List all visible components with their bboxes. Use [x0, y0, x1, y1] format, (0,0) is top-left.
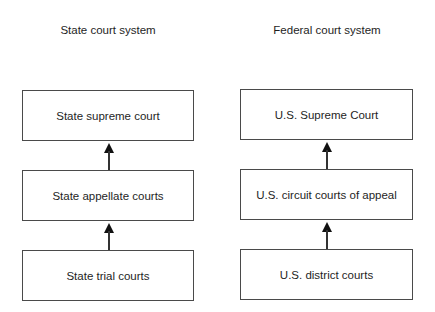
federal-column-title: Federal court system — [227, 24, 427, 36]
us-circuit-courts-box: U.S. circuit courts of appeal — [240, 169, 413, 220]
us-district-courts-box: U.S. district courts — [240, 249, 413, 300]
state-supreme-court-box: State supreme court — [22, 90, 194, 141]
state-trial-courts-box: State trial courts — [22, 250, 194, 301]
us-supreme-court-box: U.S. Supreme Court — [240, 89, 413, 140]
us-supreme-court-label: U.S. Supreme Court — [275, 109, 379, 121]
state-column-title: State court system — [8, 24, 208, 36]
state-appellate-courts-box: State appellate courts — [22, 170, 194, 221]
state-trial-courts-label: State trial courts — [66, 270, 149, 282]
state-supreme-court-label: State supreme court — [56, 110, 160, 122]
us-district-courts-label: U.S. district courts — [280, 269, 373, 281]
state-appellate-courts-label: State appellate courts — [52, 190, 163, 202]
us-circuit-courts-label: U.S. circuit courts of appeal — [256, 189, 397, 201]
